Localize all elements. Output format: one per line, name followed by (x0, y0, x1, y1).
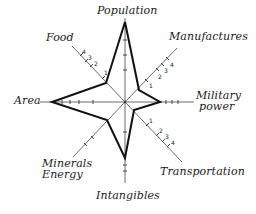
label-food: Food (46, 32, 74, 43)
label-area: Area (14, 95, 41, 106)
food-tick-3: 3 (88, 54, 92, 61)
label-military-2: power (199, 101, 234, 112)
axis-minerals (73, 102, 125, 157)
manufactures-tick-1: 1 (149, 82, 153, 89)
label-manufactures: Manufactures (169, 31, 248, 42)
label-transportation: Transportation (160, 166, 245, 177)
food-tick-2: 2 (94, 60, 98, 67)
transportation-tick-1: 1 (149, 117, 153, 124)
label-population: Population (97, 5, 157, 16)
transportation-tick-2: 2 (159, 127, 163, 134)
tick-numbers: 1 2 3 4 1 2 3 4 1 2 3 4 (82, 48, 175, 146)
transportation-tick-3: 3 (165, 133, 169, 140)
axis-ticks (62, 40, 178, 171)
food-tick-1: 1 (104, 69, 108, 76)
manufactures-tick-4: 4 (170, 61, 174, 68)
axis-food (72, 46, 125, 102)
center-point (124, 101, 126, 103)
label-intangibles: Intangibles (96, 190, 160, 201)
transportation-tick-4: 4 (171, 139, 175, 146)
food-tick-4: 4 (82, 48, 86, 55)
label-minerals-2: Energy (42, 169, 83, 180)
manufactures-tick-2: 2 (158, 73, 162, 80)
manufactures-tick-3: 3 (164, 67, 168, 74)
